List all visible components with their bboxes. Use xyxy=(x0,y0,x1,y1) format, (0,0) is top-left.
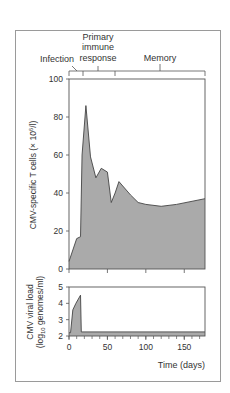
cmv-figure: Infection Primary immune response Memory… xyxy=(0,0,230,393)
y-tick-label: 60 xyxy=(54,150,64,160)
data-line xyxy=(69,295,205,333)
phase-primary-label-2: immune xyxy=(82,42,114,52)
y-tick-label: 2 xyxy=(58,331,63,341)
phase-memory-label: Memory xyxy=(144,53,177,63)
viral-load-chart: 2345050100150 xyxy=(58,282,205,352)
y-tick-label: 5 xyxy=(58,282,63,292)
x-tick-label: 50 xyxy=(103,342,113,352)
data-area xyxy=(69,295,205,336)
y-tick-label: 3 xyxy=(58,315,63,325)
viral-load-ylabel-2: (log10 genomes/ml) xyxy=(35,276,46,349)
x-axis-label: Time (days) xyxy=(158,360,205,370)
y-tick-label: 4 xyxy=(58,298,63,308)
x-tick-label: 150 xyxy=(177,342,191,352)
phase-primary-label-1: Primary xyxy=(83,32,114,42)
y-tick-label: 80 xyxy=(54,112,64,122)
y-tick-label: 20 xyxy=(54,226,64,236)
phase-primary-label-3: response xyxy=(79,53,116,63)
plot-frame xyxy=(69,287,205,336)
y-tick-label: 40 xyxy=(54,188,64,198)
phase-infection-label: Infection xyxy=(40,54,74,64)
tcell-ylabel: CMV-specific T cells (× 106/l) xyxy=(28,121,38,230)
y-tick-label: 100 xyxy=(49,74,63,84)
tcell-chart: 020406080100 xyxy=(49,74,205,274)
data-area xyxy=(69,106,205,269)
viral-load-ylabel-1: CMV viral load xyxy=(25,284,35,340)
x-tick-label: 0 xyxy=(67,342,72,352)
y-tick-label: 0 xyxy=(58,264,63,274)
phase-bracket xyxy=(69,64,205,76)
x-tick-label: 100 xyxy=(139,342,153,352)
